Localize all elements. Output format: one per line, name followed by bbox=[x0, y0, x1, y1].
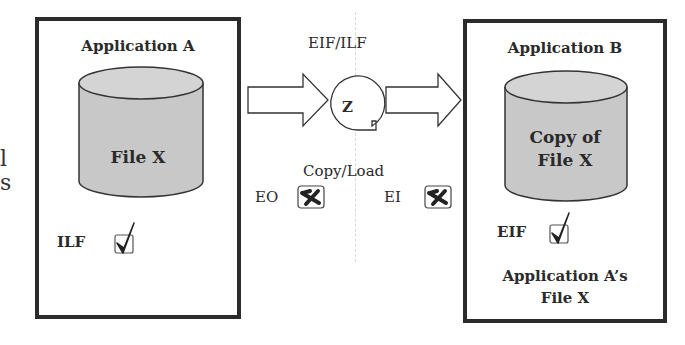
arrow-right-icon bbox=[248, 74, 328, 126]
caption-line-2: File X bbox=[467, 289, 663, 307]
eif-ilf-label: EIF/ILF bbox=[308, 34, 367, 52]
file-x-label: File X bbox=[39, 147, 237, 167]
arrow-right-icon bbox=[386, 74, 461, 126]
checkmark-icon bbox=[547, 211, 573, 247]
checkmark-icon bbox=[112, 221, 138, 257]
file-x-label: File X bbox=[467, 150, 663, 170]
process-circle-icon bbox=[318, 76, 390, 138]
clipped-text-2: s bbox=[0, 170, 11, 195]
eif-label: EIF bbox=[497, 223, 526, 241]
application-a-title: Application A bbox=[39, 37, 237, 55]
database-cylinder-icon bbox=[77, 65, 205, 200]
caption-line-1: Application A’s bbox=[467, 267, 663, 285]
clipped-text-1: l bbox=[0, 146, 7, 171]
copy-load-label: Copy/Load bbox=[303, 162, 384, 180]
ei-label: EI bbox=[384, 188, 401, 206]
eo-label: EO bbox=[255, 188, 278, 206]
process-symbol-z: Z bbox=[342, 98, 353, 116]
application-b-title: Application B bbox=[467, 39, 663, 57]
application-b-box: Application B Copy of File X EIF Applica… bbox=[463, 19, 667, 323]
x-mark-icon bbox=[297, 185, 325, 209]
ilf-label: ILF bbox=[57, 233, 85, 251]
application-a-box: Application A File X ILF bbox=[35, 17, 241, 319]
copy-of-label: Copy of bbox=[467, 127, 663, 147]
x-mark-icon bbox=[424, 185, 452, 209]
